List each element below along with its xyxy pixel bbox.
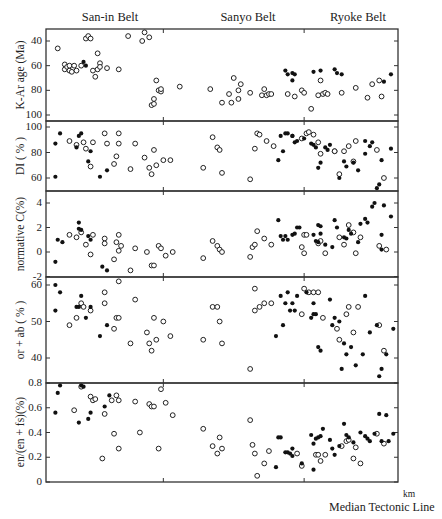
data-point-open: [356, 305, 361, 310]
data-point-open: [342, 149, 347, 154]
data-point-filled: [53, 175, 57, 179]
data-point-open: [201, 165, 206, 170]
data-point-open: [215, 305, 220, 310]
x-unit-label: km: [403, 489, 415, 499]
data-point-open: [83, 242, 88, 247]
data-point-open: [208, 87, 213, 92]
data-point-filled: [105, 268, 109, 272]
data-point-open: [145, 250, 150, 255]
data-point-open: [91, 140, 96, 145]
y-tick-label: 0.8: [20, 376, 42, 388]
data-point-open: [147, 165, 152, 170]
data-point-open: [100, 456, 105, 461]
data-point-filled: [309, 433, 313, 437]
data-point-open: [210, 444, 215, 449]
data-point-open: [259, 93, 264, 98]
data-point-open: [248, 418, 253, 423]
data-point-open: [351, 330, 356, 335]
data-point-filled: [337, 319, 341, 323]
data-point-open: [217, 148, 222, 153]
data-point-open: [210, 239, 215, 244]
data-point-open: [248, 367, 253, 372]
data-point-open: [220, 341, 225, 346]
data-point-open: [105, 141, 110, 146]
data-point-filled: [318, 161, 322, 165]
data-point-open: [154, 337, 159, 342]
data-point-open: [149, 348, 154, 353]
data-point-open: [177, 84, 182, 89]
data-point-filled: [368, 439, 372, 443]
data-point-filled: [375, 323, 379, 327]
data-point-open: [344, 312, 349, 317]
data-point-open: [262, 461, 267, 466]
data-point-filled: [335, 71, 339, 75]
data-point-open: [252, 242, 257, 247]
data-point-open: [128, 268, 133, 273]
data-point-open: [238, 82, 243, 87]
data-point-filled: [300, 461, 304, 465]
data-point-open: [112, 162, 117, 167]
data-point-open: [304, 232, 309, 237]
data-point-filled: [302, 136, 306, 140]
data-point-filled: [342, 422, 346, 426]
data-point-filled: [311, 233, 315, 237]
data-point-open: [346, 144, 351, 149]
data-point-open: [114, 393, 119, 398]
data-point-filled: [290, 454, 294, 458]
y-axis-title: K-Ar age (Ma): [14, 41, 26, 110]
panel-frame: [46, 277, 398, 383]
data-point-filled: [276, 158, 280, 162]
data-point-open: [133, 399, 138, 404]
data-point-open: [133, 297, 138, 302]
data-point-open: [102, 131, 107, 136]
data-point-open: [236, 97, 241, 102]
data-point-open: [252, 451, 257, 456]
data-point-filled: [330, 323, 334, 327]
data-point-open: [67, 63, 72, 68]
y-axis-title: or + ab ( % ): [14, 301, 26, 360]
data-point-open: [137, 430, 142, 435]
data-point-open: [321, 315, 326, 320]
data-point-open: [116, 141, 121, 146]
data-point-filled: [295, 294, 299, 298]
data-point-filled: [311, 301, 315, 305]
data-point-open: [116, 398, 121, 403]
data-point-filled: [88, 305, 92, 309]
data-point-open: [302, 90, 307, 95]
data-point-filled: [290, 446, 294, 450]
data-point-filled: [103, 404, 107, 408]
data-point-filled: [351, 440, 355, 444]
y-tick-label: 100: [20, 120, 42, 132]
data-point-open: [116, 446, 121, 451]
data-point-open: [133, 246, 138, 251]
data-point-open: [163, 253, 168, 258]
data-point-filled: [363, 152, 367, 156]
data-point-filled: [372, 432, 376, 436]
data-point-filled: [314, 312, 318, 316]
data-point-filled: [344, 236, 348, 240]
data-point-open: [220, 446, 225, 451]
data-point-filled: [311, 442, 315, 446]
data-point-filled: [384, 413, 388, 417]
data-point-open: [142, 155, 147, 160]
data-point-filled: [337, 444, 341, 448]
data-point-open: [292, 94, 297, 99]
data-point-filled: [330, 446, 334, 450]
data-point-filled: [316, 345, 320, 349]
data-point-open: [112, 326, 117, 331]
data-point-open: [252, 308, 257, 313]
data-point-open: [74, 315, 79, 320]
data-point-open: [332, 149, 337, 154]
data-point-filled: [274, 334, 278, 338]
data-point-open: [81, 140, 86, 145]
data-point-filled: [328, 143, 332, 147]
data-point-filled: [309, 316, 313, 320]
data-point-filled: [286, 290, 290, 294]
data-point-open: [346, 223, 351, 228]
data-point-filled: [79, 131, 83, 135]
data-point-filled: [276, 218, 280, 222]
data-point-filled: [358, 430, 362, 434]
data-point-filled: [342, 341, 346, 345]
data-point-open: [88, 252, 93, 257]
data-point-filled: [391, 327, 395, 331]
